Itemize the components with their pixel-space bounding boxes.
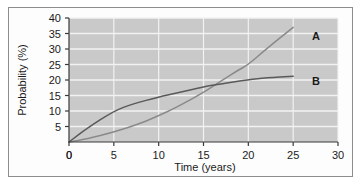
y-tick-label: 20 bbox=[49, 74, 61, 86]
y-tick-label: 10 bbox=[49, 105, 61, 117]
x-tick-label: 30 bbox=[332, 149, 344, 161]
y-tick-label: 25 bbox=[49, 59, 61, 71]
y-tick-label: 30 bbox=[49, 43, 61, 55]
y-axis-title: Probability (%) bbox=[16, 44, 28, 116]
x-tick-label: 25 bbox=[287, 149, 299, 161]
x-axis-title: Time (years) bbox=[174, 161, 235, 173]
figure-frame: 051015202530 0510152025303540 A B Time (… bbox=[8, 7, 353, 177]
series-label-b: B bbox=[312, 75, 320, 87]
x-tick-label: 20 bbox=[242, 149, 254, 161]
y-tick-label: 15 bbox=[49, 90, 61, 102]
x-tick-label: 5 bbox=[111, 149, 117, 161]
series-label-a: A bbox=[312, 30, 320, 42]
line-chart: 051015202530 0510152025303540 A B Time (… bbox=[9, 8, 354, 178]
y-tick-label: 35 bbox=[49, 28, 61, 40]
y-tick-label: 0 bbox=[66, 149, 72, 161]
x-tick-label: 10 bbox=[153, 149, 165, 161]
x-tick-label: 15 bbox=[197, 149, 209, 161]
y-tick-label: 5 bbox=[55, 121, 61, 133]
y-tick-label: 40 bbox=[49, 12, 61, 24]
x-tick-labels: 051015202530 bbox=[66, 149, 344, 161]
